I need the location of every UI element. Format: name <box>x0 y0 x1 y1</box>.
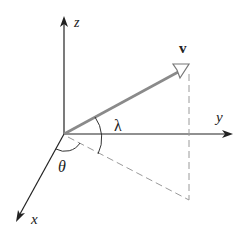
x-axis <box>16 134 64 222</box>
y-axis <box>64 130 233 138</box>
z-axis <box>60 16 68 134</box>
z-axis-label: z <box>73 15 80 30</box>
horizontal-projection-dashed-line <box>68 137 189 200</box>
theta-angle-label: θ <box>58 158 66 175</box>
projection-lines <box>68 74 189 200</box>
x-axis-arrowhead-icon <box>16 210 25 222</box>
x-axis-label: x <box>30 211 38 227</box>
lambda-angle-label: λ <box>114 117 122 134</box>
vector-angle-diagram: z y x v λ θ <box>0 0 250 235</box>
vector-v <box>64 64 189 134</box>
vector-v-hollow-arrowhead-icon <box>173 64 189 78</box>
theta-angle-arc <box>56 143 80 151</box>
y-axis-label: y <box>214 109 223 125</box>
vector-v-label: v <box>179 40 187 56</box>
lambda-angle-arc <box>95 117 102 154</box>
